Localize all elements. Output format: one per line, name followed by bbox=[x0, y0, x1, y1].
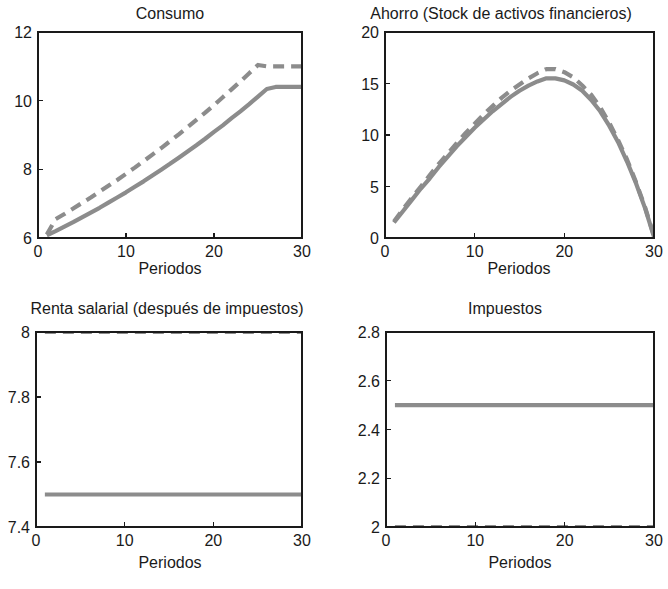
ticks-renta-salarial bbox=[36, 397, 213, 527]
ticks-impuestos bbox=[386, 381, 565, 527]
y-tick-label-ahorro-0: 0 bbox=[370, 230, 379, 247]
x-tick-label-ahorro-0: 0 bbox=[381, 243, 390, 260]
y-tick-label-ahorro-4: 20 bbox=[361, 24, 379, 41]
plot-area-ahorro bbox=[385, 32, 654, 238]
x-tick-labels-impuestos: 0102030 bbox=[382, 532, 663, 549]
y-tick-label-consumo-0: 6 bbox=[23, 230, 32, 247]
x-tick-label-impuestos-1: 10 bbox=[466, 532, 484, 549]
series-escenario-base-consumo bbox=[47, 87, 302, 235]
series-layer-impuestos bbox=[395, 405, 654, 527]
panel-title-renta-salarial: Renta salarial (después de impuestos) bbox=[30, 300, 303, 317]
panel-title-consumo: Consumo bbox=[136, 5, 205, 22]
y-tick-label-impuestos-1: 2.2 bbox=[358, 470, 380, 487]
series-layer-ahorro bbox=[394, 69, 654, 237]
y-tick-label-impuestos-0: 2 bbox=[371, 519, 380, 536]
y-tick-labels-impuestos: 22.22.42.62.8 bbox=[358, 324, 380, 536]
x-tick-label-ahorro-1: 10 bbox=[466, 243, 484, 260]
x-tick-label-consumo-0: 0 bbox=[34, 243, 43, 260]
panel-title-ahorro: Ahorro (Stock de activos financieros) bbox=[370, 5, 631, 22]
x-tick-label-impuestos-3: 30 bbox=[645, 532, 663, 549]
x-tick-label-renta-salarial-0: 0 bbox=[32, 532, 41, 549]
x-tick-label-consumo-1: 10 bbox=[117, 243, 135, 260]
series-escenario-alternativo-ahorro bbox=[394, 69, 654, 236]
y-tick-labels-renta-salarial: 7.47.67.88 bbox=[8, 324, 30, 536]
x-tick-labels-consumo: 0102030 bbox=[34, 243, 311, 260]
axis-frame-impuestos bbox=[386, 332, 654, 527]
panel-ahorro: Ahorro (Stock de activos financieros) 05… bbox=[334, 0, 668, 295]
plot-area-consumo bbox=[38, 32, 302, 238]
y-tick-label-renta-salarial-0: 7.4 bbox=[8, 519, 30, 536]
x-tick-label-ahorro-2: 20 bbox=[555, 243, 573, 260]
plot-area-impuestos bbox=[386, 332, 654, 527]
series-layer-consumo bbox=[47, 65, 302, 235]
y-tick-label-renta-salarial-1: 7.6 bbox=[8, 454, 30, 471]
x-tick-label-renta-salarial-1: 10 bbox=[116, 532, 134, 549]
x-axis-label-renta-salarial: Periodos bbox=[138, 554, 201, 571]
y-tick-label-ahorro-2: 10 bbox=[361, 127, 379, 144]
panel-consumo: Consumo 681012 0102030 Periodos bbox=[0, 0, 334, 295]
x-tick-label-consumo-2: 20 bbox=[205, 243, 223, 260]
panel-renta-salarial: Renta salarial (después de impuestos) 7.… bbox=[0, 295, 334, 589]
plot-area-renta-salarial bbox=[36, 332, 302, 527]
y-tick-label-impuestos-2: 2.4 bbox=[358, 422, 380, 439]
x-tick-label-impuestos-2: 20 bbox=[556, 532, 574, 549]
y-tick-labels-consumo: 681012 bbox=[14, 24, 32, 247]
figure-canvas: Consumo 681012 0102030 Periodos Ahorro (… bbox=[0, 0, 668, 589]
y-tick-label-renta-salarial-2: 7.8 bbox=[8, 389, 30, 406]
x-axis-label-consumo: Periodos bbox=[138, 260, 201, 277]
y-tick-label-impuestos-4: 2.8 bbox=[358, 324, 380, 341]
x-tick-label-ahorro-3: 30 bbox=[645, 243, 663, 260]
y-tick-label-consumo-3: 12 bbox=[14, 24, 32, 41]
y-tick-labels-ahorro: 05101520 bbox=[361, 24, 379, 247]
x-tick-labels-ahorro: 0102030 bbox=[381, 243, 663, 260]
axis-frame-renta-salarial bbox=[36, 332, 302, 527]
y-tick-label-consumo-1: 8 bbox=[23, 161, 32, 178]
y-tick-label-ahorro-1: 5 bbox=[370, 179, 379, 196]
series-layer-renta-salarial bbox=[45, 332, 302, 495]
y-tick-label-ahorro-3: 15 bbox=[361, 76, 379, 93]
y-tick-label-impuestos-3: 2.6 bbox=[358, 373, 380, 390]
panel-title-impuestos: Impuestos bbox=[468, 300, 542, 317]
x-tick-label-renta-salarial-2: 20 bbox=[204, 532, 222, 549]
ticks-consumo bbox=[38, 101, 214, 238]
y-tick-label-consumo-2: 10 bbox=[14, 93, 32, 110]
x-tick-labels-renta-salarial: 0102030 bbox=[32, 532, 311, 549]
panel-impuestos: Impuestos 22.22.42.62.8 0102030 Periodos bbox=[334, 295, 668, 589]
y-tick-label-renta-salarial-3: 8 bbox=[21, 324, 30, 341]
x-tick-label-consumo-3: 30 bbox=[293, 243, 311, 260]
x-tick-label-renta-salarial-3: 30 bbox=[293, 532, 311, 549]
x-tick-label-impuestos-0: 0 bbox=[382, 532, 391, 549]
series-escenario-base-ahorro bbox=[394, 78, 654, 237]
x-axis-label-ahorro: Periodos bbox=[487, 260, 550, 277]
ticks-ahorro bbox=[385, 84, 564, 239]
x-axis-label-impuestos: Periodos bbox=[488, 554, 551, 571]
